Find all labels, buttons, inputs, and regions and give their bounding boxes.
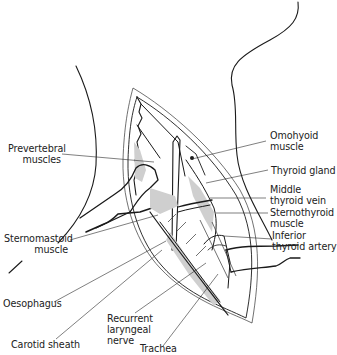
- label-line: Inferior: [272, 230, 337, 241]
- leader-trachea: [163, 274, 218, 346]
- leader-thyroid-gland: [206, 170, 268, 183]
- leader-oesophagus: [54, 241, 166, 302]
- label-sternothyroid-muscle: Sternothyroid muscle: [270, 207, 334, 229]
- omohyoid-marker: [190, 156, 194, 160]
- label-line: laryngeal: [107, 324, 153, 335]
- label-line: muscle: [270, 218, 334, 229]
- label-recurrent-laryngeal-nerve: Recurrent laryngeal nerve: [107, 313, 153, 346]
- label-line: muscles: [8, 154, 61, 165]
- label-line: muscle: [270, 141, 318, 152]
- label-line: Thyroid gland: [271, 165, 336, 176]
- label-prevertebral-muscles: Prevertebral muscles: [8, 143, 61, 165]
- neck-outline-left: [58, 66, 96, 243]
- label-line: Oesophagus: [3, 298, 62, 309]
- label-sternomastoid-muscle: Sternomastoid muscle: [4, 233, 68, 255]
- label-line: thyroid artery: [272, 241, 337, 252]
- label-inferior-thyroid-artery: Inferior thyroid artery: [272, 230, 337, 252]
- label-line: Prevertebral: [8, 143, 61, 154]
- label-line: Omohyoid: [270, 130, 318, 141]
- label-line: Sternothyroid: [270, 207, 334, 218]
- label-line: Trachea: [140, 343, 177, 354]
- label-oesophagus: Oesophagus: [3, 298, 62, 309]
- label-trachea: Trachea: [140, 343, 177, 354]
- prevertebral-shading: [134, 142, 146, 182]
- label-line: Recurrent: [107, 313, 153, 324]
- label-line: Carotid sheath: [11, 339, 80, 350]
- leader-recurrent: [135, 263, 206, 313]
- right-retractor-lower: [231, 258, 300, 272]
- label-line: thyroid vein: [270, 195, 326, 206]
- left-retractor-lower: [86, 208, 152, 232]
- label-omohyoid-muscle: Omohyoid muscle: [270, 130, 318, 152]
- label-carotid-sheath: Carotid sheath: [11, 339, 80, 350]
- central-retractor: [172, 136, 180, 250]
- leader-inferior-artery: [224, 236, 272, 239]
- label-line: Middle: [270, 184, 326, 195]
- label-middle-thyroid-vein: Middle thyroid vein: [270, 184, 326, 206]
- incision-outer-edge: [123, 88, 258, 323]
- label-line: Sternomastoid: [4, 233, 68, 244]
- recurrent-laryngeal-nerve: [204, 235, 230, 288]
- label-line: muscle: [4, 244, 68, 255]
- neck-outline-tick: [9, 261, 22, 273]
- sternomastoid-shading: [150, 188, 178, 214]
- incision-inner-edge: [128, 97, 252, 318]
- label-thyroid-gland: Thyroid gland: [271, 165, 336, 176]
